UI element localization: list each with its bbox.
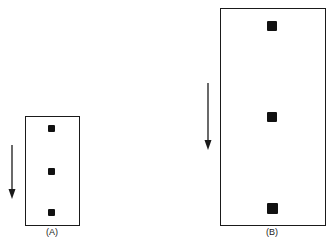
panel-a-dot-2 — [48, 168, 55, 175]
panel-b-label: (B) — [266, 227, 278, 237]
panel-b-dot-2 — [267, 112, 277, 122]
panel-a-label: (A) — [46, 227, 58, 237]
arrow-down-icon — [6, 143, 18, 203]
panel-b-dot-3 — [267, 203, 278, 214]
panel-a-dot-1 — [48, 125, 55, 132]
panel-b-dot-1 — [267, 21, 277, 31]
arrow-down-icon — [202, 82, 214, 154]
panel-a-dot-3 — [48, 209, 55, 216]
